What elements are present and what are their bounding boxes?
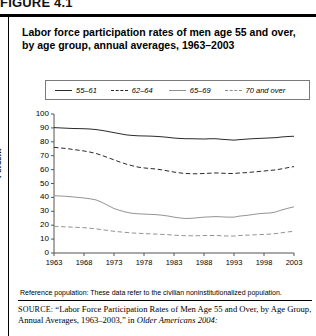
- source-publication-title: Older Americans 2004:: [137, 315, 218, 325]
- legend-item-70-and-over: 70 and over: [225, 86, 286, 95]
- legend-item-55-61: 55–61: [55, 86, 97, 95]
- x-tick-label-1973: 1973: [99, 259, 129, 267]
- y-tick-label-60: 60: [27, 166, 49, 174]
- series-line-4: [54, 226, 294, 236]
- chart-legend: 55–61 62–64 65–69 70 and over: [45, 80, 310, 100]
- series-line-1: [54, 128, 294, 141]
- y-tick-label-10: 10: [27, 235, 49, 243]
- legend-label-65-69: 65–69: [190, 86, 211, 95]
- page-gutter-rule: [8, 17, 9, 336]
- source-citation: SOURCE: “Labor Force Participation Rates…: [18, 304, 312, 327]
- legend-line-icon-55-61: [55, 90, 72, 91]
- x-tick-label-1998: 1998: [249, 259, 279, 267]
- x-tick-label-2003: 2003: [279, 259, 309, 267]
- x-tick-label-1968: 1968: [69, 259, 99, 267]
- x-tick-label-1963: 1963: [39, 259, 69, 267]
- legend-label-70-and-over: 70 and over: [246, 86, 286, 95]
- x-tick-label-1993: 1993: [219, 259, 249, 267]
- series-line-2: [54, 147, 294, 173]
- source-divider-rule: [18, 300, 312, 301]
- series-line-3: [54, 196, 294, 219]
- plot-area: [44, 110, 296, 267]
- y-tick-label-0: 0: [27, 249, 49, 257]
- legend-line-icon-70-and-over: [225, 90, 242, 91]
- source-prefix: SOURCE:: [18, 305, 53, 314]
- legend-label-55-61: 55–61: [76, 86, 97, 95]
- reference-population-note: Reference population: These data refer t…: [20, 288, 312, 297]
- header-rule: [0, 14, 316, 17]
- y-tick-label-50: 50: [27, 180, 49, 188]
- legend-line-icon-62-64: [111, 90, 128, 91]
- y-tick-label-100: 100: [27, 110, 49, 118]
- y-tick-label-90: 90: [27, 124, 49, 132]
- y-tick-label-40: 40: [27, 193, 49, 201]
- x-tick-label-1988: 1988: [189, 259, 219, 267]
- y-tick-label-70: 70: [27, 152, 49, 160]
- legend-label-62-64: 62–64: [132, 86, 153, 95]
- x-tick-label-1978: 1978: [129, 259, 159, 267]
- legend-item-65-69: 65–69: [169, 86, 211, 95]
- legend-line-icon-65-69: [169, 90, 186, 91]
- y-tick-label-30: 30: [27, 207, 49, 215]
- line-chart-svg: [44, 110, 296, 267]
- figure-label: FIGURE 4.1: [0, 0, 73, 10]
- legend-item-62-64: 62–64: [111, 86, 153, 95]
- y-axis-title: Percent: [0, 149, 3, 178]
- y-tick-label-80: 80: [27, 138, 49, 146]
- chart-title: Labor force participation rates of men a…: [22, 26, 308, 52]
- y-tick-label-20: 20: [27, 221, 49, 229]
- figure-page: FIGURE 4.1 Labor force participation rat…: [0, 0, 316, 336]
- x-tick-label-1983: 1983: [159, 259, 189, 267]
